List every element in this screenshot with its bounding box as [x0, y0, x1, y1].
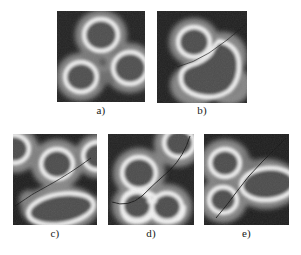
panel-a-caption: a) — [57, 104, 145, 116]
panel-d-image — [108, 134, 194, 225]
panel-c-caption: c) — [13, 227, 97, 239]
panel-d-caption: d) — [108, 227, 194, 239]
panel-a-image — [57, 11, 145, 102]
figure-panel-grid: a) b) — [0, 0, 301, 255]
panel-e-caption: e) — [204, 227, 289, 239]
panel-e-image — [204, 134, 289, 225]
panel-b-image — [157, 11, 247, 103]
panel-b-caption: b) — [157, 104, 247, 116]
panel-c-image — [13, 134, 97, 225]
